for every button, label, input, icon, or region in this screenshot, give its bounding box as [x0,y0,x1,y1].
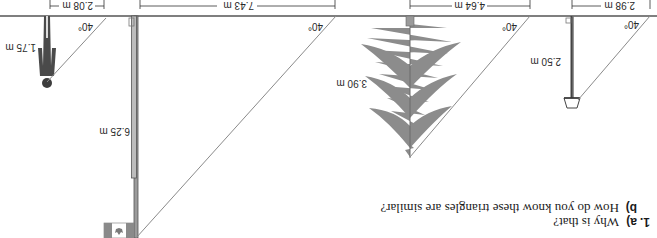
similar-triangles-figure: 40° 2.50 m 2.98 m 40° 3.90 m 4.64 m [0,0,657,238]
lamppost-angle-label: 40° [624,19,639,30]
question-number: 1. [640,215,650,229]
question-part-b-text: How do you know these triangles are simi… [380,201,619,216]
person [38,16,56,88]
flagpole-angle-label: 40° [308,21,323,32]
lamppost [564,16,580,108]
person-shadow-label: 2.08 m [62,0,93,11]
question-part-a-label: a) [626,215,637,229]
lamppost-height-label: 2.50 m [530,56,561,67]
canada-flag-icon [104,223,134,238]
lamppost-shadow-label: 2.98 m [604,0,635,11]
question-part-b-label: b) [626,201,637,215]
tree-height-label: 3.90 m [336,78,367,89]
person-height-label: 1.75 m [5,42,36,53]
flagpole-hypotenuse [136,16,336,238]
tree-shadow-label: 4.64 m [454,0,485,11]
tree [361,16,461,158]
person-angle-label: 40° [78,21,93,32]
flagpole-shadow-label: 7.43 m [223,0,254,11]
flagpole-height-label: 6.25 m [99,126,130,137]
tree-angle-label: 40° [502,21,517,32]
question-part-a-text: Why is that? [553,215,619,230]
